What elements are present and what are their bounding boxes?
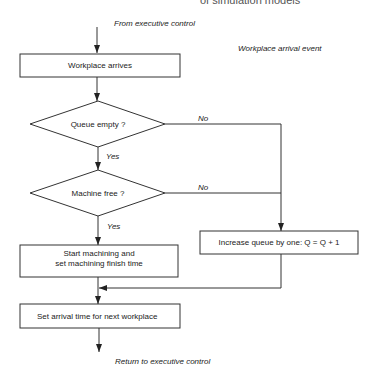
edge-label-queue-no: No <box>198 114 208 123</box>
node-start-machining-line2: set machining finish time <box>20 259 178 269</box>
node-increase-queue: Increase queue by one: Q = Q + 1 <box>200 238 358 247</box>
diagram-title: Workplace arrival event <box>238 44 322 53</box>
edge-label-machine-no: No <box>198 183 208 192</box>
node-start-machining-line1: Start machining and <box>20 249 178 259</box>
edge-label-machine-yes: Yes <box>107 222 120 231</box>
node-workplace-arrives: Workplace arrives <box>20 61 180 70</box>
node-start-machining: Start machining and set machining finish… <box>20 249 178 269</box>
decision-queue-empty: Queue empty ? <box>30 120 166 129</box>
entry-label: From executive control <box>114 19 195 28</box>
node-set-arrival-time: Set arrival time for next workplace <box>37 312 158 321</box>
edge-label-queue-yes: Yes <box>106 152 119 161</box>
decision-machine-free: Machine free ? <box>30 189 166 198</box>
exit-label: Return to executive control <box>115 357 210 366</box>
